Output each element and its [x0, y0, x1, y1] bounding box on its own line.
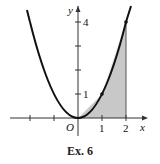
point-2-4	[124, 20, 128, 24]
origin-label: O	[66, 121, 74, 133]
shaded-region	[78, 22, 126, 118]
y-axis-label: y	[67, 4, 73, 16]
parabola-left-extension	[27, 10, 30, 22]
point-1-1	[100, 92, 104, 96]
x-axis-label: x	[139, 121, 145, 133]
y-tick-label-4: 4	[83, 16, 89, 28]
figure-graph: y 4 1 O 1 2 x	[0, 0, 160, 164]
x-tick-label-2: 2	[123, 122, 129, 134]
x-axis-arrow-icon	[142, 116, 148, 121]
y-axis-arrow-icon	[76, 6, 81, 12]
y-tick-label-1: 1	[83, 88, 89, 100]
figure-caption: Ex. 6	[0, 144, 160, 159]
x-tick-label-1: 1	[99, 122, 105, 134]
